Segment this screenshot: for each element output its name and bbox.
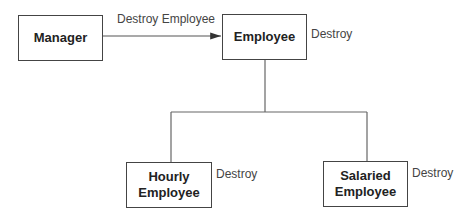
employee-class-box[interactable]: Employee xyxy=(222,14,307,60)
employee-class-name: Employee xyxy=(234,29,295,45)
salaried-class-name-line2: Employee xyxy=(335,184,396,200)
salaried-operation: Destroy xyxy=(412,166,453,180)
manager-class-name: Manager xyxy=(34,30,87,46)
hourly-class-name-line2: Employee xyxy=(138,185,199,201)
hourly-operation: Destroy xyxy=(216,167,257,181)
employee-operation: Destroy xyxy=(311,27,352,41)
salaried-employee-class-box[interactable]: Salaried Employee xyxy=(323,161,408,207)
message-label: Destroy Employee xyxy=(117,12,215,26)
class-diagram: Manager Destroy Employee Employee Destro… xyxy=(0,0,470,218)
hourly-employee-class-box[interactable]: Hourly Employee xyxy=(126,162,212,208)
hourly-class-name-line1: Hourly xyxy=(148,169,189,185)
manager-class-box[interactable]: Manager xyxy=(18,15,103,61)
salaried-class-name-line1: Salaried xyxy=(340,168,391,184)
